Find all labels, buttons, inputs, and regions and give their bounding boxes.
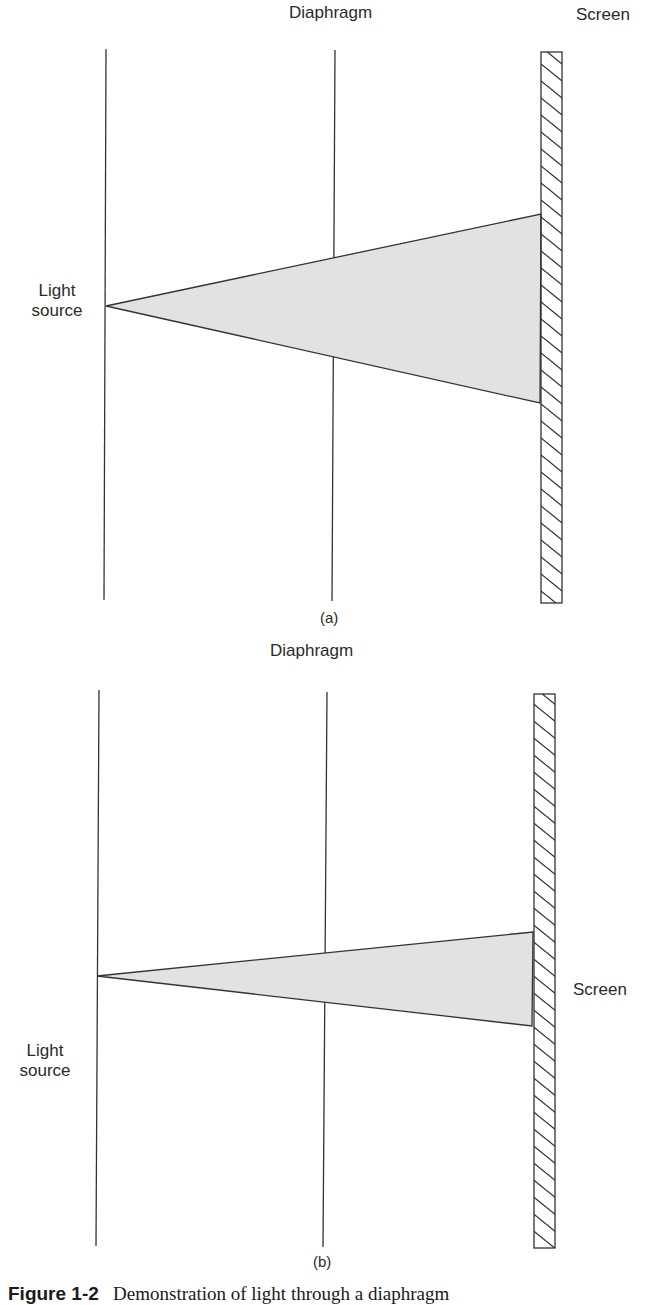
light-source-label-line1: Light [26, 281, 88, 301]
figure-caption: Figure 1-2 Demonstration of light throug… [8, 1283, 449, 1305]
light-source-label-line2: source [14, 1061, 76, 1081]
light-source-label-b: Light source [14, 1041, 76, 1080]
diaphragm-label-b: Diaphragm [270, 641, 353, 661]
screen-hatched-bar [541, 52, 562, 603]
screen-label-a: Screen [576, 5, 630, 25]
caption-text: Demonstration of light through a diaphra… [113, 1283, 449, 1304]
screen-hatched-bar [534, 694, 555, 1248]
figure-number: Figure 1-2 [8, 1283, 99, 1304]
panel-label-a: (a) [320, 609, 338, 626]
light-beam-cone [106, 214, 541, 403]
screen-label-b: Screen [573, 980, 627, 1000]
light-beam-cone [97, 932, 533, 1026]
source-plane-line [96, 690, 99, 1246]
panel-a [104, 49, 562, 603]
panel-b [96, 690, 555, 1248]
panel-label-b: (b) [313, 1253, 331, 1270]
diaphragm-label-a: Diaphragm [289, 3, 372, 23]
light-source-label-line1: Light [14, 1041, 76, 1061]
light-source-label-a: Light source [26, 281, 88, 320]
source-plane-line [104, 49, 106, 600]
light-source-label-line2: source [26, 301, 88, 321]
